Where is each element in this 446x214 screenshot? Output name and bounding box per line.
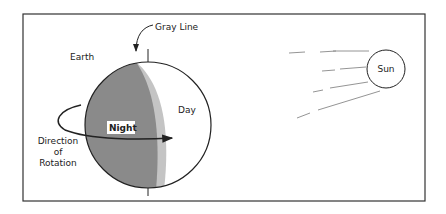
sun-label: Sun <box>377 64 394 74</box>
diagram-frame <box>23 14 425 201</box>
direction-label-line3: Rotation <box>39 158 77 168</box>
gray-line-diagram: Gray Line Earth Day Night Direction of R… <box>0 0 446 214</box>
day-label: Day <box>178 105 196 115</box>
direction-label-line2: of <box>54 147 64 157</box>
earth-label: Earth <box>70 52 94 62</box>
direction-label-line1: Direction <box>38 136 79 146</box>
night-label: Night <box>109 123 137 133</box>
gray-line-label: Gray Line <box>155 22 199 32</box>
